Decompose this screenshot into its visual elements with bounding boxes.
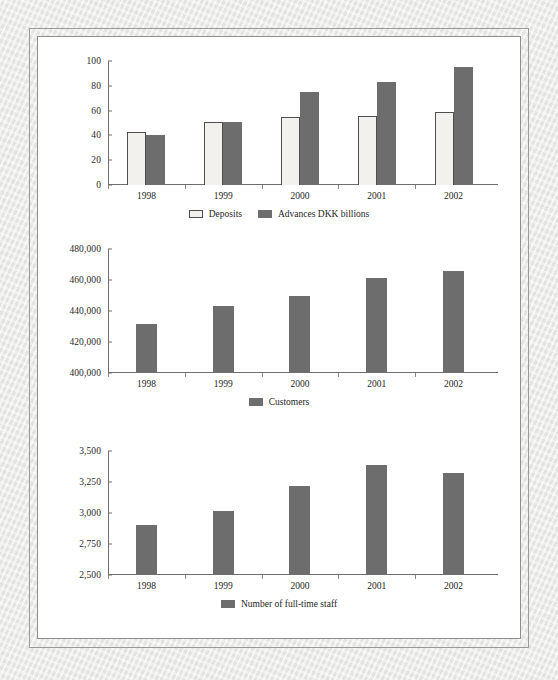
y-axis-tick-label: 100 <box>86 56 108 66</box>
y-axis-tick-mark <box>108 185 112 186</box>
bar-group <box>108 249 185 373</box>
y-axis-tick-mark <box>108 61 112 62</box>
legend-swatch-icon <box>189 210 203 218</box>
bar-number-of-full-time-staff-2002 <box>443 473 464 575</box>
y-axis-tick-label: 60 <box>91 106 108 116</box>
y-axis-tick-label: 2,500 <box>79 570 108 580</box>
legend-1: DepositsAdvances DKK billions <box>38 209 520 219</box>
x-axis-tick-mark <box>108 575 109 579</box>
legend-swatch-icon <box>258 210 272 218</box>
x-axis-label: 2002 <box>415 581 492 591</box>
x-axis-tick-mark <box>108 185 109 189</box>
y-axis-tick-mark <box>108 110 112 111</box>
y-axis-tick-mark <box>108 373 112 374</box>
legend-entry: Number of full-time staff <box>221 599 337 609</box>
y-axis-tick-label: 460,000 <box>69 275 108 285</box>
y-axis-tick-mark <box>108 280 112 281</box>
x-axis-labels-1: 19981999200020012002 <box>108 191 492 201</box>
legend-swatch-icon <box>249 398 263 406</box>
bar-advances-dkk-billions-2001 <box>377 82 396 185</box>
bar-customers-2000 <box>289 296 310 374</box>
y-axis-tick-mark <box>108 160 112 161</box>
x-axis-tick-mark <box>338 373 339 377</box>
x-axis-label: 2002 <box>415 379 492 389</box>
y-axis-tick-label: 80 <box>91 81 108 91</box>
bar-customers-1999 <box>213 306 234 373</box>
report-page: 020406080100 19981999200020012002 Deposi… <box>37 36 521 639</box>
y-axis-tick-mark <box>108 249 112 250</box>
bar-number-of-full-time-staff-2000 <box>289 486 310 575</box>
bar-advances-dkk-billions-2000 <box>300 92 319 185</box>
y-axis-tick-label: 400,000 <box>69 368 108 378</box>
y-axis-tick-mark <box>108 311 112 312</box>
y-axis-tick-label: 40 <box>91 130 108 140</box>
x-axis-tick-mark <box>185 185 186 189</box>
x-axis-tick-mark <box>185 373 186 377</box>
x-axis-tick-mark <box>185 575 186 579</box>
legend-label: Number of full-time staff <box>241 599 337 609</box>
bar-rows-3 <box>108 451 492 575</box>
x-axis-tick-mark <box>262 575 263 579</box>
bar-deposits-2001 <box>358 116 377 185</box>
x-axis-label: 2000 <box>262 379 339 389</box>
y-axis-tick-label: 20 <box>91 155 108 165</box>
y-axis-tick-label: 440,000 <box>69 306 108 316</box>
bar-group <box>185 61 262 185</box>
bar-customers-2002 <box>443 271 464 373</box>
legend-entry: Customers <box>249 397 310 407</box>
x-axis-label: 1999 <box>185 581 262 591</box>
bar-number-of-full-time-staff-2001 <box>366 465 387 575</box>
bar-number-of-full-time-staff-1999 <box>213 511 234 575</box>
y-axis-tick-label: 3,250 <box>79 477 108 487</box>
legend-label: Advances DKK billions <box>278 209 369 219</box>
bar-rows-2 <box>108 249 492 373</box>
bar-deposits-1999 <box>204 122 223 185</box>
y-axis-tick-mark <box>108 544 112 545</box>
bar-advances-dkk-billions-1999 <box>223 122 242 185</box>
y-axis-tick-label: 480,000 <box>69 244 108 254</box>
x-axis-tick-mark <box>415 373 416 377</box>
x-axis-tick-mark <box>338 575 339 579</box>
bar-rows-1 <box>108 61 492 185</box>
bar-deposits-2000 <box>281 117 300 185</box>
y-axis-tick-mark <box>108 575 112 576</box>
x-axis-tick-mark <box>108 373 109 377</box>
y-axis-tick-mark <box>108 482 112 483</box>
legend-entry: Deposits <box>189 209 242 219</box>
chart-customers: 400,000420,000440,000460,000480,000 1998… <box>38 235 520 430</box>
bar-group <box>338 451 415 575</box>
x-axis-labels-2: 19981999200020012002 <box>108 379 492 389</box>
y-axis-tick-mark <box>108 85 112 86</box>
y-axis-tick-mark <box>108 513 112 514</box>
x-axis-tick-mark <box>338 185 339 189</box>
x-axis-label: 1998 <box>108 191 185 201</box>
bar-group <box>108 451 185 575</box>
bar-group <box>415 249 492 373</box>
bar-group <box>338 61 415 185</box>
legend-2: Customers <box>38 397 520 407</box>
bar-group <box>185 249 262 373</box>
y-axis-tick-mark <box>108 342 112 343</box>
bar-group <box>415 451 492 575</box>
bar-group <box>262 249 339 373</box>
bar-advances-dkk-billions-1998 <box>146 135 165 185</box>
plot-area-3: 2,5002,7503,0003,2503,500 <box>108 451 492 575</box>
bar-deposits-1998 <box>127 132 146 185</box>
bar-deposits-2002 <box>435 112 454 185</box>
plot-area-1: 020406080100 <box>108 61 492 185</box>
x-axis-tick-mark <box>262 185 263 189</box>
bar-group <box>262 61 339 185</box>
bar-group <box>185 451 262 575</box>
y-axis-tick-mark <box>108 451 112 452</box>
x-axis-label: 2000 <box>262 191 339 201</box>
x-axis-label: 1998 <box>108 581 185 591</box>
legend-entry: Advances DKK billions <box>258 209 369 219</box>
x-axis-label: 2002 <box>415 191 492 201</box>
x-axis-label: 1999 <box>185 379 262 389</box>
x-axis-tick-mark <box>415 185 416 189</box>
bar-group <box>262 451 339 575</box>
x-axis-label: 2001 <box>338 379 415 389</box>
y-axis-tick-label: 0 <box>96 180 108 190</box>
bar-group <box>415 61 492 185</box>
chart-full-time-staff: 2,5002,7503,0003,2503,500 19981999200020… <box>38 437 520 637</box>
